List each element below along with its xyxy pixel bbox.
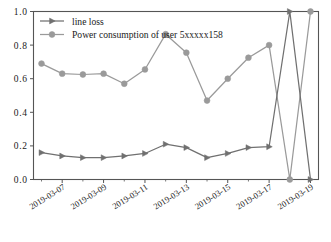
y-tick-label: 1.0 xyxy=(14,7,28,17)
data-point-circle-marker xyxy=(80,72,86,78)
data-point-circle-marker xyxy=(287,177,293,183)
legend-label: line loss xyxy=(72,16,104,27)
data-point-circle-marker xyxy=(246,55,252,61)
data-point-circle-marker xyxy=(225,76,231,82)
y-tick-label: 0.4 xyxy=(14,108,28,118)
y-tick-label: 0.2 xyxy=(14,141,28,151)
data-point-circle-marker xyxy=(49,32,55,38)
data-point-circle-marker xyxy=(59,71,65,77)
data-point-circle-marker xyxy=(204,98,210,104)
y-tick-label: 0.6 xyxy=(14,74,28,84)
data-point-circle-marker xyxy=(101,71,107,77)
y-tick-label: 0.8 xyxy=(14,41,28,51)
data-point-circle-marker xyxy=(142,67,148,73)
data-point-circle-marker xyxy=(266,42,272,48)
data-point-circle-marker xyxy=(121,81,127,87)
data-point-circle-marker xyxy=(183,50,189,56)
line-chart: 0.00.20.40.60.81.0 2019-03-072019-03-092… xyxy=(0,0,331,242)
legend-label: Power consumption of user 5xxxxx158 xyxy=(72,29,223,40)
chart-figure: 0.00.20.40.60.81.0 2019-03-072019-03-092… xyxy=(0,0,331,242)
data-point-circle-marker xyxy=(39,61,45,67)
y-tick-label: 0.0 xyxy=(14,175,28,185)
data-point-circle-marker xyxy=(308,9,314,15)
